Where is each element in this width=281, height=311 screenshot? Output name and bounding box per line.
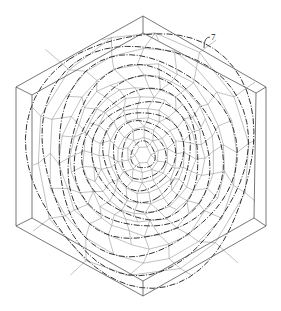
cell-wall xyxy=(133,163,139,169)
cell-wall xyxy=(86,132,93,140)
cell-wall xyxy=(117,129,124,138)
cell-wall xyxy=(237,143,249,152)
cell-wall xyxy=(187,201,189,214)
bevel-line xyxy=(256,87,266,93)
cell-wall xyxy=(129,231,131,245)
cell-wall xyxy=(132,169,133,181)
cell-wall xyxy=(69,70,86,72)
cell-wall xyxy=(218,121,231,126)
cell-wall xyxy=(99,126,107,133)
cell-wall xyxy=(115,180,118,191)
cell-wall xyxy=(144,33,155,49)
cell-wall xyxy=(112,56,114,69)
cell-wall xyxy=(50,153,58,163)
cell-wall xyxy=(138,119,145,127)
cell-wall xyxy=(149,193,151,204)
cell-wall xyxy=(118,160,128,161)
cell-wall xyxy=(110,85,119,89)
cell-wall xyxy=(83,166,94,167)
cell-wall xyxy=(150,221,159,235)
cell-wall xyxy=(108,225,112,235)
cell-wall xyxy=(124,111,127,122)
cell-wall xyxy=(200,105,208,107)
cell-wall xyxy=(152,170,163,174)
cell-wall xyxy=(107,132,111,140)
cell-wall xyxy=(80,192,93,193)
cell-wall xyxy=(205,211,222,219)
cell-wall xyxy=(208,188,218,198)
cell-wall xyxy=(170,206,177,209)
cell-wall xyxy=(86,224,90,238)
cell-wall xyxy=(217,92,234,97)
cell-wall xyxy=(137,109,138,119)
cell-wall xyxy=(90,218,102,224)
cell-pattern xyxy=(33,33,255,276)
cell-wall xyxy=(179,179,187,187)
cell-wall xyxy=(137,193,138,202)
cell-wall xyxy=(124,99,126,111)
flow-line xyxy=(131,141,155,168)
cell-wall xyxy=(154,90,160,97)
cell-wall xyxy=(163,173,170,179)
cell-wall xyxy=(85,108,98,109)
cell-wall xyxy=(192,130,200,132)
cell-wall xyxy=(125,80,134,88)
cell-wall xyxy=(249,141,255,144)
cell-wall xyxy=(41,116,52,119)
cell-wall xyxy=(183,142,196,145)
bevel-line xyxy=(16,218,32,226)
cell-wall xyxy=(97,109,105,113)
bevel-line xyxy=(254,218,266,226)
outer-hexagon xyxy=(16,16,266,296)
cell-wall xyxy=(33,163,38,165)
cell-wall xyxy=(167,162,174,168)
cell-wall xyxy=(71,166,82,172)
cell-wall xyxy=(179,196,187,200)
cell-wall xyxy=(164,198,170,206)
cell-wall xyxy=(126,188,127,201)
cell-wall xyxy=(90,123,99,126)
cell-wall xyxy=(171,179,172,190)
cell-wall xyxy=(184,117,192,118)
cell-ring xyxy=(83,88,205,222)
cell-wall xyxy=(153,180,159,188)
cell-wall xyxy=(199,204,205,211)
cell-wall xyxy=(145,221,150,237)
cell-wall xyxy=(148,97,154,108)
cell-wall xyxy=(176,105,182,111)
cell-wall xyxy=(144,75,149,89)
cell-wall xyxy=(159,235,169,244)
cell-wall xyxy=(158,149,167,151)
flow-line xyxy=(74,76,210,226)
cell-wall xyxy=(153,139,163,141)
cell-wall xyxy=(152,170,153,180)
cell-wall xyxy=(114,122,117,129)
cell-wall xyxy=(126,219,130,231)
bevel-line xyxy=(16,87,32,95)
cell-wall xyxy=(142,183,149,193)
cell-wall xyxy=(200,119,205,130)
cell-wall xyxy=(134,203,138,214)
cell-wall xyxy=(123,169,133,172)
cell-wall xyxy=(137,183,142,194)
cell-wall xyxy=(174,51,177,74)
cell-wall xyxy=(107,98,116,105)
cell-wall xyxy=(159,100,165,110)
cell-wall xyxy=(189,235,198,242)
cell-wall xyxy=(169,111,176,118)
cell-wall xyxy=(84,151,92,153)
cell-wall xyxy=(71,261,87,275)
cell-wall xyxy=(151,204,159,211)
cell-wall xyxy=(234,82,255,97)
cell-wall xyxy=(114,69,126,80)
cell-wall xyxy=(86,71,97,80)
cell-wall xyxy=(71,117,79,125)
cell-wall xyxy=(101,167,111,169)
cell-wall xyxy=(137,48,144,65)
cell-wall xyxy=(170,127,178,130)
cell-wall xyxy=(176,141,183,142)
cell-wall xyxy=(167,141,176,149)
inner-hexagon xyxy=(32,33,256,281)
cell-wall xyxy=(208,92,217,105)
cell-ring xyxy=(135,147,151,163)
